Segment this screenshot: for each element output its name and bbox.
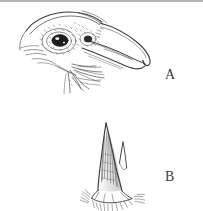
claw-icon	[78, 118, 158, 211]
bird-head-icon	[8, 4, 168, 104]
top-divider-rule	[0, 0, 203, 2]
panel-label-b: B	[165, 170, 175, 184]
figure-plate: A B	[0, 0, 203, 211]
panel-label-a: A	[165, 68, 176, 82]
